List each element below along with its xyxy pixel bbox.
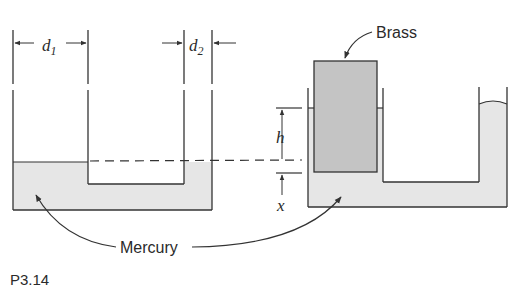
brass-leader-arrow	[345, 32, 372, 58]
manometer-diagram: d1 d2 h x Brass Mercury P3.14	[0, 0, 519, 287]
h-label: h	[276, 128, 285, 147]
right-u-tube	[308, 61, 507, 207]
reference-dashed-line	[90, 160, 302, 161]
d2-label: d2	[189, 36, 204, 58]
brass-block	[314, 61, 377, 172]
mercury-label: Mercury	[120, 239, 178, 256]
brass-label: Brass	[376, 24, 417, 41]
d1-label: d1	[42, 36, 57, 58]
figure-caption: P3.14	[10, 271, 49, 287]
left-mercury-fill	[13, 162, 212, 210]
x-dimension	[276, 173, 302, 195]
x-label: x	[276, 196, 285, 215]
